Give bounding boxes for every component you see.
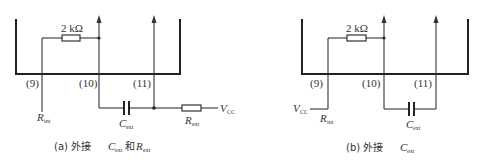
svg-text:和: 和 xyxy=(125,141,135,152)
svg-text:R: R xyxy=(184,114,192,126)
cext-label-a: C ext xyxy=(119,117,134,130)
pin11-label-b: (11) xyxy=(414,77,432,90)
svg-text:int: int xyxy=(327,119,334,125)
resistor-value-label-b: 2 kΩ xyxy=(346,22,368,34)
resistor-value-label-a: 2 kΩ xyxy=(61,22,83,34)
pin10-label-b: (10) xyxy=(362,77,381,90)
rext-label-a: R ext xyxy=(184,114,200,127)
svg-text:ext: ext xyxy=(407,148,415,154)
caption-b: (b) 外接 C ext xyxy=(346,141,415,154)
svg-text:ext: ext xyxy=(115,147,123,153)
pin9-label-a: (9) xyxy=(26,77,39,90)
arrow-up-icon xyxy=(97,15,102,23)
svg-text:ext: ext xyxy=(126,124,134,130)
svg-text:(a) 外接: (a) 外接 xyxy=(54,140,91,152)
chip-outline-a xyxy=(16,19,180,74)
svg-text:ext: ext xyxy=(143,147,151,153)
external-resistor-a xyxy=(182,105,201,111)
arrow-up-icon xyxy=(434,15,439,23)
internal-resistor-b xyxy=(347,35,366,41)
svg-text:R: R xyxy=(319,112,327,124)
svg-text:(b) 外接: (b) 外接 xyxy=(346,141,383,153)
pin10-label-a: (10) xyxy=(79,77,98,90)
chip-outline-b xyxy=(302,19,468,74)
svg-text:CC: CC xyxy=(300,109,308,115)
vcc-label-a: V CC xyxy=(220,102,235,115)
circuit-diagrams: 2 kΩ (9) (10) (11) R int C ext R ext V C… xyxy=(0,0,479,166)
pin9-label-b: (9) xyxy=(310,77,323,90)
svg-text:int: int xyxy=(44,118,51,124)
pin11-label-a: (11) xyxy=(133,77,151,90)
svg-text:CC: CC xyxy=(227,109,235,115)
diagram-b: 2 kΩ (9) (10) (11) V CC R int C ext (b) … xyxy=(293,15,468,154)
caption-a: (a) 外接 C ext 和 R ext xyxy=(54,140,151,153)
arrow-up-icon xyxy=(382,15,387,23)
cext-label-b: C ext xyxy=(406,118,421,131)
arrow-up-icon xyxy=(152,15,157,23)
rint-label-a: R int xyxy=(36,111,51,124)
vcc-label-b: V CC xyxy=(293,102,308,115)
svg-text:R: R xyxy=(135,140,143,152)
svg-text:ext: ext xyxy=(192,121,200,127)
svg-text:ext: ext xyxy=(413,125,421,131)
diagram-a: 2 kΩ (9) (10) (11) R int C ext R ext V C… xyxy=(16,15,235,153)
svg-text:R: R xyxy=(36,111,44,123)
rint-label-b: R int xyxy=(319,112,334,125)
internal-resistor-a xyxy=(62,35,80,41)
